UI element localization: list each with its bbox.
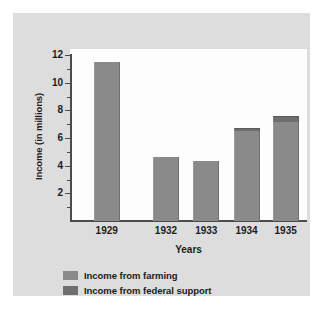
legend-item[interactable]: Income from farming — [63, 269, 293, 282]
chart-legend: Income from farmingIncome from federal s… — [63, 269, 293, 299]
bar-segment-farming[interactable] — [273, 122, 299, 221]
bar-segment-farming[interactable] — [193, 161, 219, 221]
chart-panel: 24681012 Income (in millions) 1929193219… — [13, 13, 310, 296]
bar-group[interactable] — [234, 128, 260, 221]
bar-group[interactable] — [273, 116, 299, 221]
bar-group[interactable] — [94, 62, 120, 221]
x-axis-title: Years — [70, 244, 307, 255]
x-axis-tick-labels: 19291932193319341935 — [70, 225, 307, 241]
y-axis-title: Income (in millions) — [33, 72, 44, 202]
x-axis-tick-label: 1935 — [266, 225, 306, 237]
bar-group[interactable] — [153, 157, 179, 221]
bar-segment-farming[interactable] — [153, 157, 179, 221]
legend-label: Income from federal support — [84, 285, 211, 296]
x-axis-tick-label: 1933 — [186, 225, 226, 237]
legend-label: Income from farming — [84, 270, 178, 281]
legend-swatch — [63, 286, 78, 295]
legend-item[interactable]: Income from federal support — [63, 284, 293, 297]
bar-segment-farming[interactable] — [234, 131, 260, 221]
x-axis-tick-label: 1934 — [227, 225, 267, 237]
x-axis-tick-label: 1929 — [87, 225, 127, 237]
bar-chart-figure: 24681012 Income (in millions) 1929193219… — [0, 0, 323, 309]
bar-segment-farming[interactable] — [94, 62, 120, 221]
legend-swatch — [63, 271, 78, 280]
y-axis-tick-label: 12 — [17, 50, 63, 60]
bars-container — [70, 49, 307, 221]
bar-group[interactable] — [193, 161, 219, 221]
x-axis-tick-label: 1932 — [146, 225, 186, 237]
